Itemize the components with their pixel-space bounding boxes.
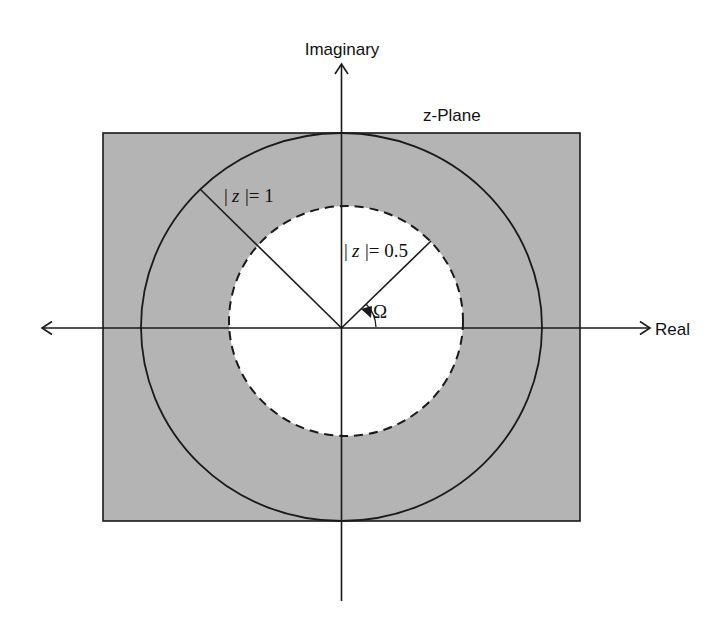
- half-circle-label-value: |= 0.5: [365, 240, 408, 261]
- unit-circle-label-value: |= 1: [245, 185, 274, 206]
- plane-title: z-Plane: [423, 106, 481, 125]
- imaginary-axis-label: Imaginary: [305, 40, 380, 59]
- half-circle-label-bar: |: [344, 240, 348, 261]
- half-circle-label: | z |= 0.5: [344, 240, 408, 261]
- angle-label: Ω: [373, 301, 387, 322]
- unit-circle-label-bar: |: [224, 185, 228, 206]
- z-plane-diagram: Imaginary Real z-Plane | z |= 1 | z |= 0…: [0, 0, 727, 625]
- unit-circle-label-var: z: [231, 185, 240, 206]
- half-circle-label-var: z: [351, 240, 360, 261]
- unit-circle-label: | z |= 1: [224, 185, 274, 206]
- real-axis-label: Real: [655, 320, 690, 339]
